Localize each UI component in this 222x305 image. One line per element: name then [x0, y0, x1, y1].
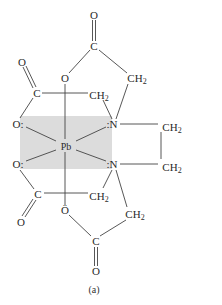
atom-label: CH [89, 89, 104, 101]
atom-label: CH [125, 208, 140, 220]
atom-ch2-lower-right: CH2 [125, 209, 144, 220]
atom-c-bottom: C [92, 236, 99, 247]
atom-o-upper-mid: O [61, 73, 69, 84]
atom-o-upper-left: O [18, 57, 26, 68]
atom-label: CH [162, 161, 177, 173]
atom-o-top: O [90, 10, 98, 21]
atom-n-lower: :N [107, 159, 118, 170]
subscript: 2 [105, 195, 109, 204]
atom-label: CH [89, 190, 104, 202]
figure-caption: (a) [88, 284, 99, 295]
atom-ch2-upper-right: CH2 [127, 73, 146, 84]
subscript: 2 [105, 94, 109, 103]
subscript: 2 [178, 166, 182, 175]
atom-n-upper: :N [107, 119, 118, 130]
atom-o-bottom: O [92, 266, 100, 277]
atom-ch2-lower-mid: CH2 [89, 191, 108, 202]
atom-o-left-lower: O: [13, 159, 24, 170]
atom-c-upper-left: C [33, 88, 40, 99]
atom-c-top: C [90, 41, 97, 52]
atom-o-left-upper: O: [13, 119, 24, 130]
atom-ch2-upper-mid: CH2 [89, 90, 108, 101]
bond-lines [0, 0, 222, 305]
atom-o-lower-left: O [17, 217, 25, 228]
atom-label: CH [162, 121, 177, 133]
atom-c-lower-left: C [34, 189, 41, 200]
atom-label: CH [127, 72, 142, 84]
atom-ch2-far-right-lower: CH2 [162, 162, 181, 173]
subscript: 2 [141, 213, 145, 222]
atom-o-lower-mid: Ö [61, 205, 69, 216]
edta-lead-complex-diagram: O C O CH2 O C CH2 O: :N CH2 Pb O: :N CH2… [0, 0, 222, 305]
subscript: 2 [178, 126, 182, 135]
atom-ch2-far-right-upper: CH2 [162, 122, 181, 133]
subscript: 2 [143, 77, 147, 86]
atom-pb: Pb [61, 141, 72, 152]
